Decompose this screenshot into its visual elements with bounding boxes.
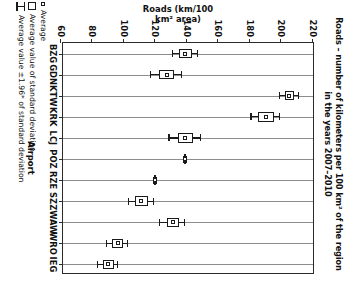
y-axis-tick — [92, 39, 93, 43]
figure: Roads – number of kilometers per 100 km²… — [0, 0, 348, 288]
y-axis-tick-label: 180 — [245, 20, 255, 37]
chart-title: Roads – number of kilometers per 100 km²… — [322, 0, 344, 288]
legend-item-label: Average — [38, 10, 48, 41]
category-gridline — [63, 201, 313, 202]
category-gridline — [63, 75, 313, 76]
whisker-cap — [279, 92, 280, 99]
category-gridline — [63, 180, 313, 181]
x-axis-tick-label: SZZ — [48, 192, 58, 210]
mean-marker — [154, 178, 158, 182]
legend-item: Average — [38, 2, 48, 286]
y-axis-tick — [186, 39, 187, 43]
whisker-cap — [106, 240, 107, 247]
whisker-cap — [169, 134, 170, 141]
x-axis-tick-label: KRK — [48, 107, 58, 126]
category-gridline — [63, 222, 313, 223]
x-axis-tick-label: GDN — [48, 64, 58, 85]
x-axis-tick — [59, 180, 63, 181]
x-axis-tick — [59, 96, 63, 97]
mean-marker — [106, 262, 110, 266]
x-axis-tick — [59, 201, 63, 202]
x-axis-tick — [59, 54, 63, 55]
category-gridline — [63, 243, 313, 244]
y-axis-tick-label: 200 — [277, 20, 287, 37]
y-axis-tick-label: 100 — [119, 20, 129, 37]
legend-item-label: Average value of standard deviation — [27, 14, 37, 152]
whisker-cap — [117, 261, 118, 268]
x-axis-tick — [59, 138, 63, 139]
chart-canvas: Roads – number of kilometers per 100 km²… — [0, 0, 348, 288]
whisker-cap — [153, 198, 154, 205]
x-axis-tick — [59, 243, 63, 244]
y-axis-tick — [249, 39, 250, 43]
mean-marker — [183, 136, 187, 140]
chart-title-line-1: Roads – number of kilometers per 100 km²… — [333, 0, 344, 288]
whisker-cap — [159, 219, 160, 226]
y-axis-tick-label: 220 — [308, 20, 318, 37]
category-gridline — [63, 159, 313, 160]
legend-mean-icon — [41, 2, 45, 6]
legend-item-label: Average value ±1.96* of standard deviati… — [16, 15, 26, 182]
whisker-cap — [97, 261, 98, 268]
x-axis-tick — [59, 264, 63, 265]
x-axis-tick-label: WRO — [48, 232, 58, 255]
y-axis-tick-label: 60 — [56, 25, 66, 37]
legend-item: Average value ±1.96* of standard deviati… — [16, 2, 26, 286]
whisker-cap — [250, 113, 251, 120]
category-gridline — [63, 96, 313, 97]
mean-marker — [171, 220, 175, 224]
whisker-cap — [279, 113, 280, 120]
mean-marker — [165, 73, 169, 77]
x-axis-tick — [59, 159, 63, 160]
y-axis-tick — [123, 39, 124, 43]
x-axis-tick-label: KTW — [48, 85, 58, 106]
whisker-cap — [172, 50, 173, 57]
chart-title-line-2: in the years 2007–2010 — [322, 0, 333, 288]
x-axis-tick-label: BZG — [48, 44, 58, 63]
y-axis-tick — [312, 39, 313, 43]
y-axis-tick — [281, 39, 282, 43]
mean-marker — [183, 157, 187, 161]
y-axis-tick — [155, 39, 156, 43]
x-axis-tick-label: POZ — [48, 149, 58, 168]
whisker-cap — [197, 50, 198, 57]
mean-marker — [264, 115, 268, 119]
mean-marker — [183, 52, 187, 56]
x-axis-tick-label: WAW — [48, 210, 58, 234]
x-axis-tick-label: RZE — [48, 171, 58, 189]
chart-legend: AverageAverage value of standard deviati… — [15, 2, 48, 286]
whisker-cap — [128, 198, 129, 205]
plot-area: BZGGDNKTWKRKLCJPOZRZESZZWAWWROIEG2202001… — [62, 42, 314, 274]
y-axis-tick — [218, 39, 219, 43]
rotated-figure-wrapper: Roads – number of kilometers per 100 km²… — [0, 0, 348, 288]
whisker-cap — [181, 71, 182, 78]
mean-marker — [287, 94, 291, 98]
x-axis-tick — [59, 117, 63, 118]
legend-whisker-icon — [17, 2, 26, 11]
x-axis-tick — [59, 75, 63, 76]
legend-item: Average value of standard deviation — [27, 2, 37, 286]
x-axis-tick — [59, 222, 63, 223]
mean-marker — [116, 241, 120, 245]
x-axis-tick-label: LCJ — [48, 131, 58, 146]
y-axis-tick-label: 80 — [88, 25, 98, 37]
whisker-cap — [150, 71, 151, 78]
x-axis-tick-label: IEG — [48, 257, 58, 273]
whisker-cap — [200, 134, 201, 141]
y-axis-tick — [60, 39, 61, 43]
mean-marker — [139, 199, 143, 203]
whisker-cap — [184, 219, 185, 226]
whisker-cap — [127, 240, 128, 247]
whisker-cap — [298, 92, 299, 99]
legend-box-icon — [28, 2, 36, 10]
y-axis-title: Roads (km/100 km² area) — [138, 4, 218, 24]
